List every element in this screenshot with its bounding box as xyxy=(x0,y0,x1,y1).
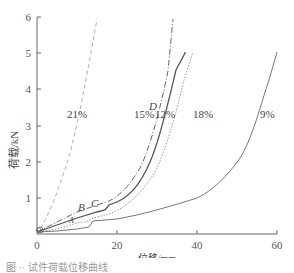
load-displacement-chart: 6 5 4 3 2 1 0 20 40 60 荷载/kN 位移/mm 21% 1… xyxy=(0,0,294,258)
y-tick-3: 3 xyxy=(26,120,32,132)
y-tick-6: 6 xyxy=(26,11,32,23)
x-tick-60: 60 xyxy=(272,239,284,251)
x-tick-0: 0 xyxy=(34,239,40,251)
y-axis-title: 荷载/kN xyxy=(8,131,20,170)
curve-12pct xyxy=(37,52,185,232)
label-9pct: 9% xyxy=(260,108,275,120)
x-axis-title: 位移/mm xyxy=(138,252,177,258)
point-O: O xyxy=(36,226,41,234)
x-ticks xyxy=(117,230,277,234)
x-tick-20: 20 xyxy=(112,239,124,251)
curve-21pct xyxy=(37,19,97,234)
y-tick-1: 1 xyxy=(26,192,32,204)
curve-15pct xyxy=(37,19,173,232)
curve-18pct xyxy=(37,52,193,232)
point-B: B xyxy=(78,201,85,213)
point-D: D xyxy=(148,100,157,112)
figure-caption: 图 ·· 试件荷载位移曲线 xyxy=(6,259,108,273)
label-18pct: 18% xyxy=(193,108,213,120)
label-12pct: 12% xyxy=(155,108,175,120)
point-A: A xyxy=(68,216,74,225)
y-tick-5: 5 xyxy=(26,47,32,59)
y-ticks xyxy=(37,17,41,198)
y-tick-4: 4 xyxy=(26,83,32,95)
point-C: C xyxy=(91,197,99,209)
label-21pct: 21% xyxy=(67,108,87,120)
x-tick-40: 40 xyxy=(192,239,204,251)
y-tick-2: 2 xyxy=(26,156,32,168)
